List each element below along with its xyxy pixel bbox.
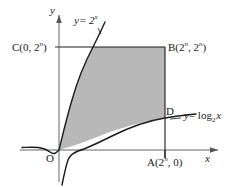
point-b-coords-open: (2 [175, 41, 184, 53]
point-a-name: A [147, 156, 155, 168]
log-label-eq: = log [189, 109, 212, 121]
y-axis-label: y [50, 5, 55, 16]
logarithmic-curve-label: y= log2 x [184, 110, 221, 124]
point-label-d: D [166, 106, 174, 117]
exponential-curve-label: y= 2x [74, 14, 98, 26]
d-connector [170, 118, 181, 119]
math-diagram: y x O y= 2x y= log2 x C(0, 2n) B(2n, 2n)… [0, 0, 235, 187]
log-label-arg: x [216, 109, 221, 121]
y-axis-arrowhead [56, 15, 62, 23]
exp-label-exponent: x [95, 13, 98, 21]
diagram-canvas [0, 0, 235, 187]
point-a-coords-rest: , 0) [168, 156, 183, 168]
point-label-c: C(0, 2n) [12, 41, 47, 53]
origin-label: O [46, 153, 54, 164]
point-label-a: A(2n, 0) [147, 156, 182, 168]
point-a-coords-open: (2 [155, 156, 164, 168]
point-c-coords-open: (0, 2 [19, 41, 39, 53]
point-label-b: B(2n, 2n) [168, 41, 206, 53]
point-c-coords-close: ) [43, 41, 47, 53]
point-b-coords-mid: , 2 [188, 41, 199, 53]
point-b-coords-close: ) [203, 41, 207, 53]
shaded-region [59, 47, 165, 150]
exp-label-eq: = 2 [79, 14, 95, 26]
x-axis-arrowhead [210, 147, 218, 153]
x-axis-label: x [205, 153, 210, 164]
